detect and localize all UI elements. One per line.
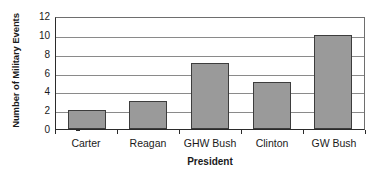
x-axis-tick-mark <box>241 130 242 134</box>
x-axis-tick-mark <box>179 130 180 134</box>
bar-slot <box>179 18 241 129</box>
x-axis-tick-mark <box>55 130 56 134</box>
y-axis-tick-label: 0 <box>26 125 50 135</box>
x-axis-category-label: Clinton <box>241 137 303 149</box>
bar-carter <box>68 110 106 129</box>
x-axis-tick-marks <box>55 130 365 135</box>
x-axis-tick-mark <box>303 130 304 134</box>
y-axis-tick-label: 6 <box>26 69 50 79</box>
x-axis-category-label: GHW Bush <box>179 137 241 149</box>
bar-slot <box>118 18 180 129</box>
bars-group <box>56 18 364 129</box>
bar-clinton <box>253 82 291 129</box>
bar-reagan <box>129 101 167 129</box>
x-axis-category-label: Reagan <box>117 137 179 149</box>
y-axis-title: Number of Military Events <box>10 7 21 135</box>
y-axis-tick-label: 10 <box>26 31 50 41</box>
y-axis-tick-label: 4 <box>26 87 50 97</box>
y-axis-tick-label: 8 <box>26 50 50 60</box>
x-axis-tick-labels: CarterReaganGHW BushClintonGW Bush <box>55 137 365 149</box>
x-axis-title: President <box>55 156 365 167</box>
bar-slot <box>302 18 364 129</box>
bar-slot <box>241 18 303 129</box>
x-axis-category-label: Carter <box>55 137 117 149</box>
bar-chart-figure: Number of Military Events 024681012 Cart… <box>0 0 379 180</box>
plot-area <box>55 17 365 130</box>
y-axis-tick-labels: 024681012 <box>26 17 50 130</box>
y-axis-tick-label: 2 <box>26 106 50 116</box>
x-axis-category-label: GW Bush <box>303 137 365 149</box>
bar-gw-bush <box>314 35 352 129</box>
y-axis-tick-label: 12 <box>26 12 50 22</box>
bar-ghw-bush <box>191 63 229 129</box>
x-axis-tick-mark <box>117 130 118 134</box>
x-axis-tick-mark <box>365 130 366 134</box>
bar-slot <box>56 18 118 129</box>
